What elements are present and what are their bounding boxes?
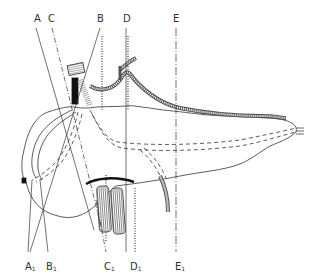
label-A: A (34, 14, 41, 24)
label-C1: C1 (104, 262, 115, 272)
label-A1: A1 (25, 262, 36, 272)
label-E: E (173, 14, 179, 24)
label-B1: B1 (46, 262, 57, 272)
label-B: B (97, 14, 104, 24)
label-D: D (123, 14, 131, 24)
pancreas-diagram (0, 0, 327, 280)
label-E1: E1 (175, 262, 185, 272)
bile-duct (72, 78, 78, 104)
label-C: C (48, 14, 55, 24)
label-D1: D1 (130, 262, 142, 272)
